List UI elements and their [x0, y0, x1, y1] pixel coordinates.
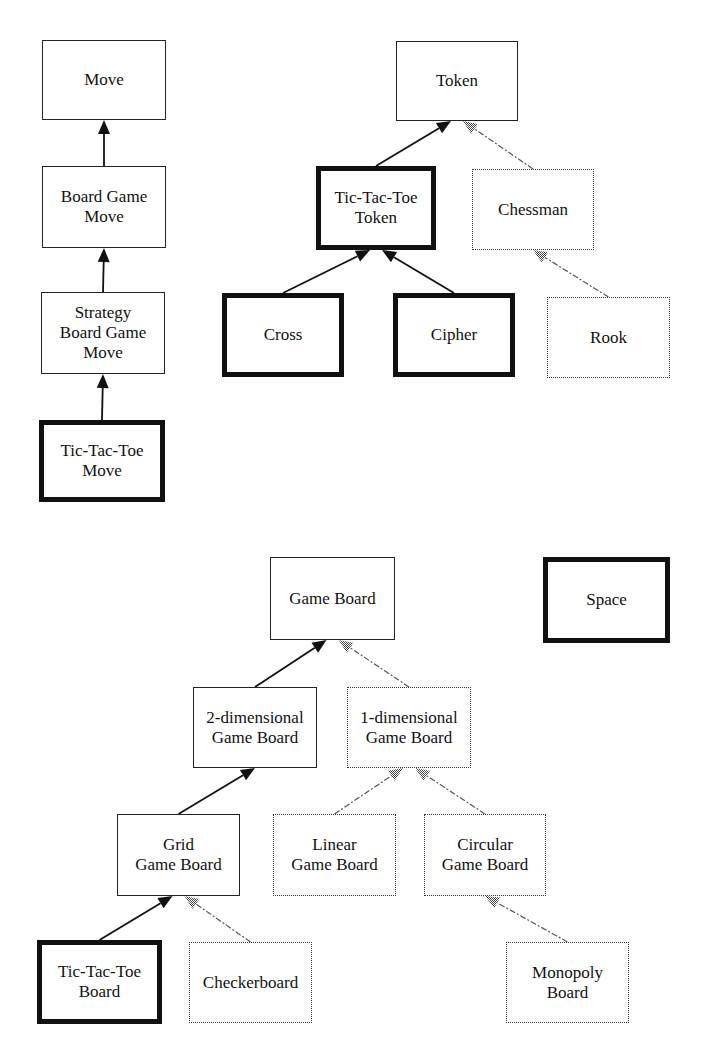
hatched-arrowhead-icon — [185, 896, 200, 909]
solid-arrowhead-icon — [157, 896, 172, 908]
inheritance-edge — [100, 903, 161, 940]
hatched-arrowhead-icon — [485, 896, 500, 908]
inheritance-edge — [335, 776, 392, 814]
inheritance-edge — [196, 904, 251, 942]
solid-arrowhead-icon — [98, 248, 110, 262]
class-box-move: Move — [42, 40, 166, 120]
inheritance-edge — [475, 129, 533, 169]
inheritance-edge — [179, 775, 244, 814]
class-box-game-board: Game Board — [270, 557, 395, 640]
inheritance-edge — [350, 648, 409, 687]
solid-arrowhead-icon — [98, 120, 110, 134]
hatched-arrowhead-icon — [533, 250, 548, 262]
class-box-tic-tac-toe-move: Tic-Tac-Toe Move — [39, 420, 165, 502]
solid-arrowhead-icon — [240, 768, 255, 780]
solid-arrowhead-icon — [382, 250, 397, 262]
diagram-edges — [0, 0, 704, 1059]
class-box-board-game-move: Board Game Move — [42, 166, 166, 248]
inheritance-edge — [102, 388, 103, 420]
hatched-arrowhead-icon — [388, 768, 403, 781]
class-box-checkerboard: Checkerboard — [189, 942, 312, 1023]
inheritance-edge — [283, 256, 357, 293]
inheritance-edge — [103, 262, 104, 292]
class-box-monopoly-board: Monopoly Board — [506, 942, 629, 1023]
class-box-linear-game-board: Linear Game Board — [273, 814, 396, 896]
inheritance-edge — [376, 128, 439, 166]
inheritance-edge — [427, 776, 485, 814]
class-box-chessman: Chessman — [472, 169, 594, 250]
inheritance-edge — [497, 903, 567, 942]
class-box-tic-tac-toe-board: Tic-Tac-Toe Board — [37, 940, 162, 1024]
hatched-arrowhead-icon — [339, 640, 354, 653]
solid-arrowhead-icon — [97, 374, 109, 388]
class-box-space: Space — [543, 557, 670, 643]
class-box-grid-game-board: Grid Game Board — [117, 814, 240, 896]
inheritance-edge — [255, 648, 315, 687]
class-box-strategy-board-game-move: Strategy Board Game Move — [41, 292, 165, 374]
hatched-arrowhead-icon — [415, 768, 430, 781]
hatched-arrowhead-icon — [463, 121, 478, 134]
class-box-tic-tac-toe-token: Tic-Tac-Toe Token — [316, 166, 436, 250]
solid-arrowhead-icon — [312, 640, 327, 653]
inheritance-edge — [545, 257, 609, 297]
class-box-1d-game-board: 1-dimensional Game Board — [347, 687, 471, 768]
class-box-2d-game-board: 2-dimensional Game Board — [193, 687, 317, 768]
class-box-cipher: Cipher — [393, 293, 515, 377]
class-box-circular-game-board: Circular Game Board — [424, 814, 546, 896]
inheritance-edge — [394, 257, 454, 293]
class-box-cross: Cross — [222, 293, 344, 377]
solid-arrowhead-icon — [436, 121, 451, 133]
class-box-token: Token — [396, 41, 518, 121]
class-box-rook: Rook — [547, 297, 670, 378]
